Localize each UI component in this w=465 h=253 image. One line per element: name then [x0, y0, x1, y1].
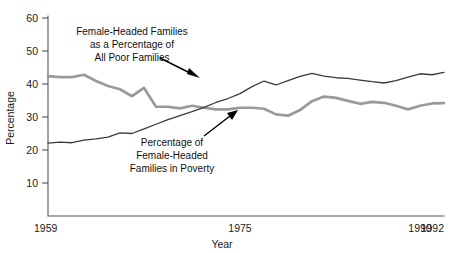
y-axis-tick-labels: 102030405060: [26, 12, 38, 189]
y-axis-tick-label: 10: [26, 177, 38, 189]
y-axis-tick-label: 50: [26, 45, 38, 57]
y-axis-tick-label: 20: [26, 144, 38, 156]
chart-figure: 102030405060 1959197519901992 Percentage…: [0, 0, 465, 253]
series-group: [48, 72, 444, 143]
y-axis-tick-label: 30: [26, 111, 38, 123]
annotation-upper-line-3: All Poor Families: [94, 52, 169, 63]
annotation-lower: Percentage of Female-Headed Families in …: [130, 110, 238, 174]
x-axis-tick-label: 1959: [34, 222, 58, 234]
annotation-lower-arrow-shaft: [204, 116, 230, 136]
y-axis-title: Percentage: [4, 91, 16, 145]
x-axis-tick-label: 1975: [228, 222, 252, 234]
annotation-lower-line-2: Female-Headed: [136, 150, 208, 161]
y-axis-tick-label: 40: [26, 78, 38, 90]
annotation-upper-line-2: as a Percentage of: [90, 39, 174, 50]
axes-group: 102030405060 1959197519901992: [26, 12, 444, 234]
annotation-lower-line-3: Families in Poverty: [130, 163, 214, 174]
x-axis-tick-label: 1992: [421, 222, 445, 234]
y-axis-ticks: [42, 18, 48, 183]
annotation-upper: Female-Headed Families as a Percentage o…: [76, 26, 200, 78]
x-axis-tick-labels: 1959197519901992: [34, 222, 444, 234]
series-female-headed-in-poverty: [48, 75, 444, 116]
y-axis-tick-label: 60: [26, 12, 38, 24]
line-chart: 102030405060 1959197519901992 Percentage…: [0, 0, 465, 253]
annotation-upper-arrow-shaft: [160, 58, 192, 74]
annotation-lower-line-1: Percentage of: [141, 137, 203, 148]
annotation-upper-line-1: Female-Headed Families: [76, 26, 188, 37]
annotation-upper-arrow-head: [187, 68, 200, 78]
annotation-lower-arrow-head: [227, 110, 238, 120]
x-axis-title: Year: [211, 238, 233, 250]
